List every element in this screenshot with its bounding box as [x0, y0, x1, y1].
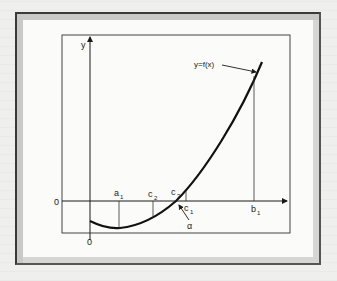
svg-text:c: c [184, 203, 189, 213]
point-label-b1: b 1 [251, 204, 261, 216]
root-label-alpha: α [187, 221, 192, 231]
point-label-c3: c 3 [171, 187, 181, 199]
svg-text:2: 2 [154, 195, 158, 201]
svg-text:1: 1 [257, 210, 261, 216]
svg-text:c: c [148, 189, 153, 199]
origin-x-label: 0 [87, 237, 92, 247]
function-curve [90, 62, 262, 228]
bisection-diagram: y 0 0 y=f(x) a 1 c 2 c 3 c 1 b 1 α [0, 0, 337, 281]
origin-y-label: 0 [54, 197, 59, 207]
point-label-c2: c 2 [148, 189, 158, 201]
y-axis-label: y [81, 40, 86, 50]
svg-text:1: 1 [190, 209, 194, 215]
svg-text:1: 1 [120, 194, 124, 200]
point-label-a1: a 1 [114, 188, 124, 200]
svg-text:a: a [114, 188, 119, 198]
curve-label: y=f(x) [194, 60, 215, 69]
curve-label-pointer [222, 65, 256, 72]
point-label-c1: c 1 [184, 203, 194, 215]
svg-text:b: b [251, 204, 256, 214]
svg-text:c: c [171, 187, 176, 197]
